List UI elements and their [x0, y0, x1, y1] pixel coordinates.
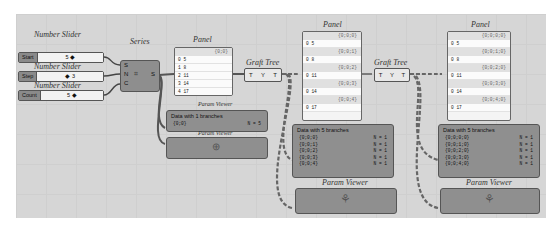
series-component[interactable]: S N C ⌗ S — [120, 60, 160, 92]
slider-title: Number Slider — [34, 30, 81, 39]
panel-row: 0 11 — [303, 72, 361, 80]
viewer-line: {0;0}N = 5 — [167, 121, 267, 128]
viewer1b-title: Param Viewer — [198, 130, 232, 136]
graft-output[interactable]: T — [402, 72, 406, 78]
slider-label: Step — [19, 72, 37, 81]
panel-row: 4 17 — [175, 88, 232, 96]
panel-path: {0;0} — [175, 48, 232, 56]
viewer-line: {0;0;4}N = 1 — [293, 161, 393, 168]
series-icon: ⌗ — [134, 70, 138, 78]
panel2-title: Panel — [323, 20, 342, 29]
panel-path: {0;0;2;0} — [448, 64, 510, 72]
tree-icon: ⊕ — [212, 141, 220, 152]
series-input-step[interactable]: N — [124, 71, 128, 77]
panel3-title: Panel — [471, 20, 490, 29]
graft-input[interactable]: T — [379, 72, 383, 78]
slider-label: Count — [19, 91, 41, 100]
slider-label: Start — [19, 53, 38, 62]
panel-path: {0;0;0} — [303, 32, 361, 40]
panel-row: 0 5 — [303, 40, 361, 48]
panel-path: {0;0;4} — [303, 96, 361, 104]
panel3[interactable]: {0;0;0;0} 0 5 {0;0;1;0} 0 8 {0;0;2;0} 0 … — [447, 31, 511, 121]
slider-value[interactable]: 5 ◆ — [38, 53, 103, 62]
panel-row: 2 11 — [175, 72, 232, 80]
viewer2b-title: Param Viewer — [322, 178, 368, 187]
graft-icon: Y — [390, 72, 394, 78]
slider-value[interactable]: 5 ◆ — [41, 91, 103, 100]
tree-icon: ⚘ — [340, 192, 351, 206]
graft-input[interactable]: T — [249, 72, 253, 78]
panel-row: 3 14 — [175, 80, 232, 88]
param-viewer-2[interactable]: Data with 5 branches {0;0;0}N = 1 {0;0;1… — [292, 124, 394, 178]
param-viewer-1b[interactable]: ⊕ — [166, 137, 268, 159]
panel-row: 0 8 — [448, 56, 510, 64]
viewer1-title: Param Viewer — [198, 101, 232, 107]
panel-row: 0 14 — [448, 88, 510, 96]
panel-path: {0;0;3;0} — [448, 80, 510, 88]
panel-path: {0;0;2} — [303, 64, 361, 72]
panel-row: 0 5 — [448, 40, 510, 48]
panel1[interactable]: {0;0} 0 5 1 8 2 11 3 14 4 17 — [174, 47, 233, 96]
param-viewer-3b[interactable]: ⚘ — [440, 188, 540, 214]
series-input-count[interactable]: C — [124, 80, 128, 86]
series-title: Series — [130, 37, 150, 46]
panel-path: {0;0;4;0} — [448, 96, 510, 104]
panel-path: {0;0;1} — [303, 48, 361, 56]
series-input-start[interactable]: S — [124, 62, 128, 68]
tree-icon: ⚘ — [484, 192, 495, 206]
viewer3b-title: Param Viewer — [466, 178, 512, 187]
series-output[interactable]: S — [151, 71, 155, 77]
graft-icon: Y — [261, 72, 265, 78]
slider-value[interactable]: ◆ 3 — [37, 72, 103, 81]
graft2-title: Graft Tree — [374, 58, 407, 67]
graft-output[interactable]: T — [273, 72, 277, 78]
slider-title: Number Slider — [34, 81, 81, 90]
viewer-header: Data with 5 branches — [293, 125, 393, 135]
slider-title: Number Slider — [34, 62, 81, 71]
panel-row: 0 11 — [448, 72, 510, 80]
panel2[interactable]: {0;0;0} 0 5 {0;0;1} 0 8 {0;0;2} 0 11 {0;… — [302, 31, 362, 121]
param-viewer-2b[interactable]: ⚘ — [295, 188, 397, 214]
panel-row: 0 5 — [175, 56, 232, 64]
param-viewer-1[interactable]: Data with 1 branches {0;0}N = 5 — [166, 110, 268, 132]
viewer-line: {0;0;4;0}N = 1 — [439, 161, 539, 168]
panel-path: {0;0;3} — [303, 80, 361, 88]
viewer-header: Data with 1 branches — [167, 111, 267, 121]
slider-count[interactable]: Count 5 ◆ — [18, 90, 104, 101]
graft1-title: Graft Tree — [246, 58, 279, 67]
panel-row: 0 17 — [448, 104, 510, 112]
graft1-component[interactable]: T Y T — [244, 68, 282, 82]
panel-row: 1 8 — [175, 64, 232, 72]
panel-row: 0 17 — [303, 104, 361, 112]
panel1-title: Panel — [193, 35, 212, 44]
panel-path: {0;0;0;0} — [448, 32, 510, 40]
panel-row: 0 8 — [303, 56, 361, 64]
graft2-component[interactable]: T Y T — [374, 68, 410, 82]
param-viewer-3[interactable]: Data with 5 branches {0;0;0;0}N = 1 {0;0… — [438, 124, 540, 178]
viewer-header: Data with 5 branches — [439, 125, 539, 135]
panel-path: {0;0;1;0} — [448, 48, 510, 56]
panel-row: 0 14 — [303, 88, 361, 96]
